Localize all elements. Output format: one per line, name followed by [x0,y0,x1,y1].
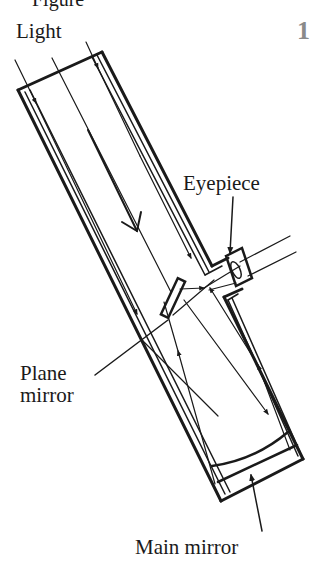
telescope-diagram [0,0,328,562]
main-mirror [212,432,297,482]
plane-mirror [161,278,185,318]
telescope-tube [18,52,303,501]
